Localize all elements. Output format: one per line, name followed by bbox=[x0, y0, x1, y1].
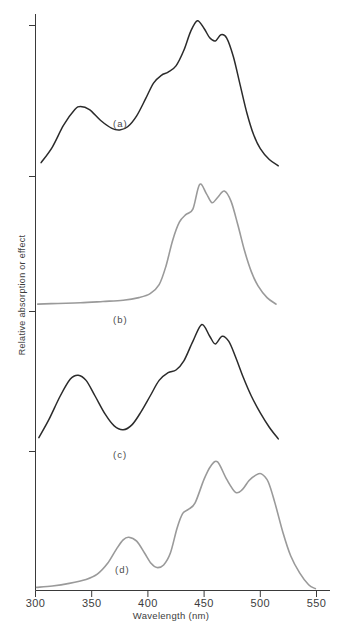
x-tick-label-450: 450 bbox=[188, 597, 220, 609]
x-tick-label-550: 550 bbox=[301, 597, 333, 609]
panel-label-a: (a) bbox=[113, 118, 128, 129]
curve-b bbox=[38, 184, 276, 304]
panel-label-c: (c) bbox=[113, 449, 127, 460]
panel-label-b: (b) bbox=[113, 314, 128, 325]
x-axis-title: Wavelength (nm) bbox=[0, 610, 342, 621]
panel-label-d: (d) bbox=[115, 564, 130, 575]
x-tick-label-400: 400 bbox=[132, 597, 164, 609]
curve-a bbox=[41, 21, 278, 166]
x-tick-label-300: 300 bbox=[20, 597, 52, 609]
curve-c bbox=[39, 324, 278, 438]
spectra-plot-svg bbox=[0, 0, 342, 634]
x-tick-label-500: 500 bbox=[244, 597, 276, 609]
curve-d bbox=[37, 461, 316, 588]
y-axis-title: Relative absorption or effect bbox=[17, 195, 27, 395]
x-tick-label-350: 350 bbox=[76, 597, 108, 609]
spectra-figure: 300350400450500550 (a) (b) (c) (d) Wavel… bbox=[0, 0, 342, 634]
